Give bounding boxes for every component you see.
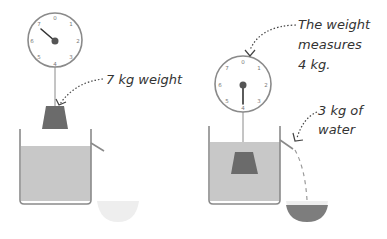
arrowhead-icon xyxy=(293,133,303,141)
left-dial-number: 4 xyxy=(53,61,57,67)
right-needle-hub xyxy=(240,82,247,89)
left-weight xyxy=(42,106,68,129)
right-container xyxy=(209,126,293,204)
right-dial-number: 3 xyxy=(257,98,261,104)
right-dial-number: 7 xyxy=(225,65,229,71)
left-spring-scale: 0 1 2 3 4 5 6 7 xyxy=(28,13,82,106)
right-dial-number: 0 xyxy=(241,59,245,65)
left-annotation-arrow xyxy=(60,79,103,104)
water-label-line1: 3 kg of xyxy=(318,103,363,119)
water-label-line2: water xyxy=(318,122,355,138)
right-dial-number: 6 xyxy=(218,82,222,88)
left-dial-number: 3 xyxy=(69,54,73,60)
left-dial-number: 7 xyxy=(37,21,41,27)
left-dial-number: 0 xyxy=(53,15,57,21)
left-dial-number: 5 xyxy=(37,54,41,60)
water-annotation-arrow xyxy=(297,112,317,138)
left-dial-number: 2 xyxy=(76,38,80,44)
right-bowl xyxy=(286,201,328,222)
left-dial-number: 6 xyxy=(30,38,34,44)
right-weight-label-line2: measures xyxy=(298,37,362,53)
left-container xyxy=(20,129,104,204)
arrowhead-icon xyxy=(245,50,255,56)
right-dial-number: 1 xyxy=(257,65,261,71)
water-stream xyxy=(295,150,307,200)
left-water xyxy=(21,146,91,201)
right-spout xyxy=(280,140,293,149)
left-needle-hub xyxy=(52,38,59,45)
right-weight-label-line1: The weight xyxy=(298,17,370,33)
diagram-canvas: 0 1 2 3 4 5 6 7 0 1 2 3 4 5 6 7 xyxy=(0,0,387,239)
left-empty-bowl xyxy=(97,201,139,222)
right-dial-number: 5 xyxy=(225,98,229,104)
left-dial-number: 1 xyxy=(69,21,73,27)
right-dial-number: 4 xyxy=(241,105,245,111)
right-weight-label-line3: 4 kg. xyxy=(298,57,330,73)
left-weight-label: 7 kg weight xyxy=(106,72,182,88)
right-dial-number: 2 xyxy=(264,82,268,88)
left-spout xyxy=(91,143,104,151)
right-bowl-water xyxy=(286,205,328,222)
right-annotation-arrow xyxy=(250,25,296,50)
